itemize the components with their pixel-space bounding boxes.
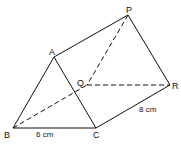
vertex-label-R: R bbox=[172, 81, 179, 91]
edge-PR bbox=[128, 15, 170, 85]
vertex-label-B: B bbox=[4, 130, 10, 140]
edge-PQ bbox=[87, 15, 128, 85]
measurement-CR: 8 cm bbox=[139, 105, 157, 114]
edge-CR bbox=[96, 85, 170, 128]
measurement-BC: 6 cm bbox=[36, 130, 54, 139]
edge-AB bbox=[13, 57, 54, 128]
edge-AC bbox=[54, 57, 96, 128]
vertex-label-Q: Q bbox=[77, 78, 84, 88]
edge-BQ bbox=[13, 85, 87, 128]
vertex-label-P: P bbox=[126, 5, 132, 15]
edge-AP bbox=[54, 15, 128, 57]
prism-diagram: A P Q R B C 6 cm 8 cm bbox=[0, 0, 181, 146]
vertex-label-C: C bbox=[93, 130, 100, 140]
vertex-label-A: A bbox=[49, 47, 55, 57]
